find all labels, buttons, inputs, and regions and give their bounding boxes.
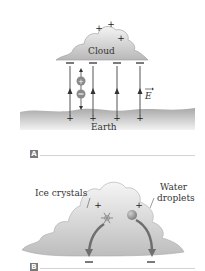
svg-text:+: + <box>66 113 74 123</box>
panel-b-illustration: + + <box>0 160 205 270</box>
water-droplet-icon <box>127 210 137 220</box>
panel-tag-b: B <box>30 263 38 271</box>
panel-b-charge-separation: + + Ice crystals Water droplets B <box>0 160 205 270</box>
water-droplets-label-line1: Water <box>160 183 187 192</box>
earth-label: Earth <box>91 123 117 132</box>
svg-text:+: + <box>95 23 103 33</box>
water-droplets-label-line2: droplets <box>157 194 195 203</box>
panel-b-divider <box>40 268 195 269</box>
svg-text:+: + <box>135 200 143 210</box>
svg-text:+: + <box>78 78 84 86</box>
svg-text:+: + <box>94 200 102 210</box>
svg-text:+: + <box>107 19 115 29</box>
panel-a-cloud-earth-field: + + + + + + + <box>0 0 205 160</box>
panel-a-illustration: + + + + + + + <box>0 0 205 160</box>
panel-tag-a: A <box>30 150 38 158</box>
electric-field-label: E <box>145 92 152 101</box>
svg-text:+: + <box>136 113 144 123</box>
panel-a-divider <box>40 155 195 156</box>
ice-crystals-label: Ice crystals <box>35 189 87 198</box>
svg-text:+: + <box>117 33 125 43</box>
cloud-label: Cloud <box>88 47 115 56</box>
